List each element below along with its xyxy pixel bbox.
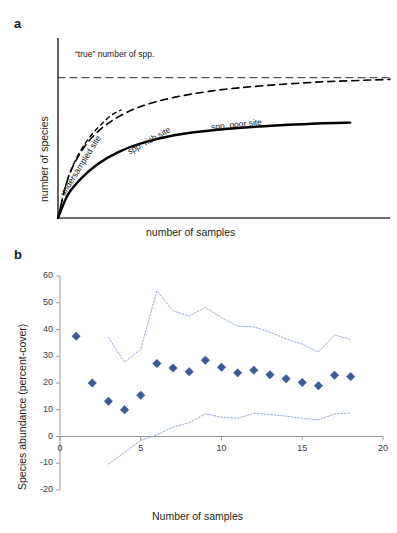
panel-b-y-tick--20: -20 bbox=[0, 484, 53, 494]
panel-b-y-tick-30: 30 bbox=[0, 350, 53, 360]
panel-a-curve-undersampled-site bbox=[58, 110, 121, 218]
panel-a-curve-spp-poor-site bbox=[58, 123, 350, 218]
panel-b-data-point bbox=[153, 359, 161, 367]
panel-b-data-point bbox=[88, 379, 96, 387]
panel-a-asymptote-label: “true” number of spp. bbox=[75, 49, 154, 59]
panel-b-x-tick-15: 15 bbox=[282, 443, 322, 453]
panel-b-data-point bbox=[330, 371, 338, 379]
panel-a-x-axis-title: number of samples bbox=[146, 226, 235, 238]
panel-b-data-point bbox=[217, 363, 225, 371]
panel-b-x-tick-10: 10 bbox=[202, 443, 242, 453]
panel-a-plot-svg bbox=[0, 30, 397, 245]
panel-b-y-tick--10: -10 bbox=[0, 457, 53, 467]
panel-a-y-axis-title: number of species bbox=[38, 116, 50, 202]
panel-b-chart: Species abundance (percent-cover) Number… bbox=[0, 258, 397, 533]
panel-b-data-point bbox=[250, 366, 258, 374]
panel-b-y-tick-0: 0 bbox=[0, 431, 53, 441]
panel-b-data-point bbox=[314, 381, 322, 389]
panel-b-plot-svg bbox=[0, 258, 397, 533]
panel-b-y-tick-50: 50 bbox=[0, 297, 53, 307]
panel-b-y-tick-40: 40 bbox=[0, 324, 53, 334]
panel-b-y-tick-60: 60 bbox=[0, 270, 53, 280]
panel-b-data-point bbox=[201, 356, 209, 364]
panel-b-data-point bbox=[282, 375, 290, 383]
panel-b-y-tick-10: 10 bbox=[0, 404, 53, 414]
panel-a-curve-spp-rich-site bbox=[58, 79, 390, 218]
panel-b-x-tick-0: 0 bbox=[40, 443, 80, 453]
panel-b-data-point bbox=[169, 364, 177, 372]
panel-b-x-axis-title: Number of samples bbox=[152, 510, 243, 522]
panel-b-x-tick-20: 20 bbox=[363, 443, 397, 453]
panel-b-data-point bbox=[185, 368, 193, 376]
panel-b-data-point bbox=[104, 397, 112, 405]
panel-b-x-tick-5: 5 bbox=[121, 443, 161, 453]
panel-b-data-point bbox=[347, 372, 355, 380]
panel-b-lower-confidence-limit bbox=[108, 413, 350, 464]
panel-a-chart: number of species number of samples “tru… bbox=[0, 30, 397, 245]
panel-b-data-point bbox=[298, 378, 306, 386]
panel-a-label: a bbox=[14, 16, 21, 31]
panel-b-data-point bbox=[120, 406, 128, 414]
panel-b-data-point bbox=[233, 369, 241, 377]
panel-b-scatter-series bbox=[72, 332, 355, 414]
figure-container: a number of species number of samples “t… bbox=[0, 0, 397, 533]
panel-b-data-point bbox=[137, 391, 145, 399]
panel-b-data-point bbox=[266, 371, 274, 379]
panel-b-data-point bbox=[72, 332, 80, 340]
panel-b-upper-confidence-limit bbox=[108, 291, 350, 362]
panel-b-y-tick-20: 20 bbox=[0, 377, 53, 387]
